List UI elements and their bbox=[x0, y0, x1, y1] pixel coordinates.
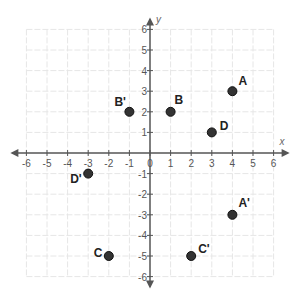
point-d-prime: D' bbox=[70, 169, 93, 186]
x-tick-label: -5 bbox=[43, 158, 52, 169]
point-label: C' bbox=[198, 242, 210, 256]
x-tick-label: 2 bbox=[188, 158, 194, 169]
point-marker bbox=[228, 210, 237, 219]
point-a-prime: A' bbox=[228, 196, 250, 220]
y-tick-label: -3 bbox=[138, 210, 147, 221]
point-marker bbox=[228, 87, 237, 96]
y-tick-label: -2 bbox=[138, 189, 147, 200]
x-axis-label: x bbox=[279, 136, 286, 147]
x-axis-left-arrow-icon bbox=[10, 149, 18, 157]
coordinate-plane: xy -6-5-4-3-2-10123456-6-5-4-3-2-1123456… bbox=[0, 0, 298, 304]
x-tick-label: 0 bbox=[147, 158, 153, 169]
data-points: ABB'DD'A'CC' bbox=[70, 74, 250, 260]
y-tick-label: 6 bbox=[141, 24, 147, 35]
y-tick-label: 2 bbox=[141, 107, 147, 118]
y-tick-label: -4 bbox=[138, 230, 147, 241]
point-marker bbox=[166, 107, 175, 116]
y-tick-label: -6 bbox=[138, 272, 147, 283]
x-tick-label: 1 bbox=[168, 158, 174, 169]
point-b: B bbox=[166, 93, 184, 117]
x-tick-label: -4 bbox=[63, 158, 72, 169]
x-tick-label: -1 bbox=[125, 158, 134, 169]
x-tick-label: 3 bbox=[209, 158, 215, 169]
point-label: C bbox=[94, 246, 103, 260]
point-label: B' bbox=[114, 95, 126, 109]
point-marker bbox=[84, 169, 93, 178]
point-label: D bbox=[220, 119, 229, 133]
point-marker bbox=[104, 252, 113, 261]
y-tick-label: -5 bbox=[138, 251, 147, 262]
point-d: D bbox=[207, 119, 229, 137]
y-tick-label: 1 bbox=[141, 127, 147, 138]
x-axis-right-arrow-icon bbox=[282, 149, 290, 157]
y-axis-label: y bbox=[155, 14, 162, 25]
point-marker bbox=[125, 107, 134, 116]
y-tick-label: 4 bbox=[141, 66, 147, 77]
y-axis-up-arrow-icon bbox=[146, 17, 154, 25]
x-tick-label: 6 bbox=[271, 158, 277, 169]
point-c-prime: C' bbox=[187, 242, 210, 261]
point-b-prime: B' bbox=[114, 95, 133, 117]
x-tick-label: -2 bbox=[104, 158, 113, 169]
x-tick-label: 5 bbox=[250, 158, 256, 169]
y-tick-label: -1 bbox=[138, 169, 147, 180]
y-tick-label: 3 bbox=[141, 86, 147, 97]
y-tick-label: 5 bbox=[141, 45, 147, 56]
y-axis-down-arrow-icon bbox=[146, 281, 154, 289]
point-label: B bbox=[175, 93, 184, 107]
point-a: A bbox=[228, 74, 248, 96]
point-label: D' bbox=[70, 172, 82, 186]
point-label: A bbox=[238, 74, 247, 88]
point-label: A' bbox=[238, 196, 250, 210]
point-marker bbox=[207, 128, 216, 137]
point-marker bbox=[187, 252, 196, 261]
point-c: C bbox=[94, 246, 114, 261]
x-tick-label: 4 bbox=[230, 158, 236, 169]
x-tick-label: -3 bbox=[84, 158, 93, 169]
x-tick-label: -6 bbox=[22, 158, 31, 169]
